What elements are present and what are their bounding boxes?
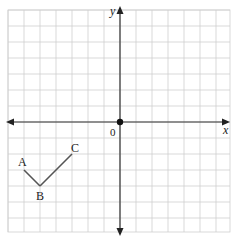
point-labels: A B C — [18, 141, 79, 203]
point-label-c: C — [71, 141, 79, 155]
x-axis-label: x — [222, 123, 229, 137]
point-label-a: A — [18, 155, 27, 169]
origin-dot — [117, 119, 123, 125]
origin-label: 0 — [110, 126, 116, 138]
y-axis-label: y — [109, 4, 116, 18]
point-label-b: B — [36, 189, 44, 203]
coordinate-grid: 0 x y A B C — [0, 0, 232, 240]
segment-ab — [24, 170, 40, 186]
x-axis-left-arrow-icon — [6, 119, 14, 126]
